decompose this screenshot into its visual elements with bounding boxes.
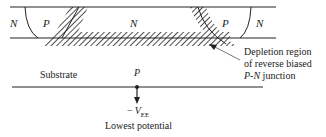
left-n-label: N: [9, 17, 18, 29]
right-p-label: P: [221, 17, 229, 29]
right-n-label: N: [255, 17, 264, 29]
left-p-label: P: [42, 17, 50, 29]
bias-arrow: [134, 87, 140, 104]
annotation-line-3: P-N junction: [243, 70, 295, 81]
left-p-region-boundary: [25, 7, 38, 38]
pn-italic: P-N: [243, 70, 261, 81]
substrate-label: Substrate: [40, 69, 78, 80]
right-p-region-boundary: [240, 7, 251, 38]
bias-voltage-label: −VEE: [127, 105, 149, 119]
substrate-type-label: P: [133, 67, 140, 78]
pn-isolation-diagram: N P N P N Depletion region of reverse bi…: [0, 0, 326, 137]
ee-subscript: EE: [141, 111, 150, 119]
depletion-pointer-arrow: [209, 44, 240, 60]
junction-word: junction: [260, 70, 295, 81]
annotation-line-2: of reverse biased: [244, 58, 312, 69]
annotation-line-1: Depletion region: [244, 46, 311, 57]
lowest-potential-label: Lowest potential: [105, 120, 172, 131]
center-n-label: N: [129, 17, 138, 29]
minus-sign: −: [127, 105, 133, 116]
